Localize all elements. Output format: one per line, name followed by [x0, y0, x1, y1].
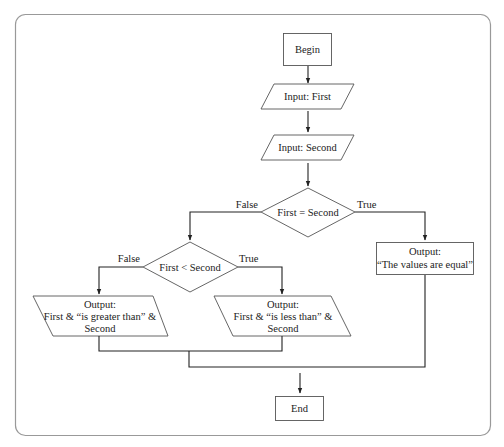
output-equal-node: Output: “The values are equal”	[377, 243, 474, 275]
edge-label-equal-true: True	[357, 199, 377, 210]
output-greater-line-1: Output:	[84, 299, 116, 310]
input-first-node: Input: First	[261, 84, 354, 109]
edge-label-equal-false: False	[236, 199, 259, 210]
output-greater-line-2: First & “is greater than” &	[44, 311, 156, 322]
output-greater-line-3: Second	[85, 323, 117, 334]
decision-equal-label: First = Second	[277, 207, 339, 218]
flowchart-canvas: Begin Input: First Input: Second First =…	[0, 0, 504, 447]
decision-less-label: First < Second	[159, 262, 221, 273]
input-second-node: Input: Second	[261, 135, 354, 160]
input-second-label: Input: Second	[278, 142, 337, 153]
output-less-line-1: Output:	[267, 299, 299, 310]
output-less-line-2: First & “is less than” &	[234, 311, 333, 322]
output-greater-node: Output: First & “is greater than” & Seco…	[33, 296, 168, 336]
output-equal-line-2: “The values are equal”	[377, 259, 473, 270]
output-less-node: Output: First & “is less than” & Second	[214, 296, 351, 336]
edge-label-less-true: True	[239, 253, 259, 264]
end-node: End	[276, 397, 324, 421]
output-less-line-3: Second	[268, 323, 300, 334]
output-equal-line-1: Output:	[409, 246, 441, 257]
diagram-frame	[16, 15, 491, 436]
end-label: End	[291, 403, 309, 414]
edge-label-less-false: False	[118, 253, 141, 264]
input-first-label: Input: First	[284, 91, 331, 102]
begin-label: Begin	[295, 44, 321, 55]
begin-node: Begin	[284, 34, 332, 66]
